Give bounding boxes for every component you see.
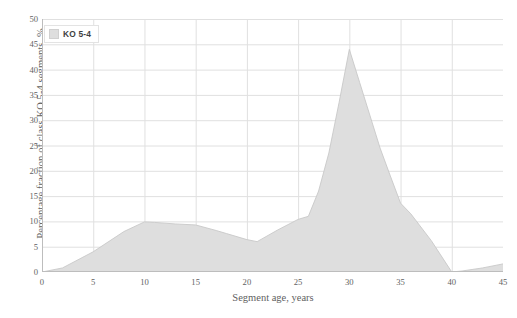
x-tick-label: 40: [437, 278, 467, 287]
area-fill: [42, 49, 503, 272]
x-tick-label: 45: [488, 278, 517, 287]
x-tick-label: 0: [27, 278, 57, 287]
chart-container: Percentage fraction of class KO 5-4 segm…: [0, 0, 517, 318]
x-tick-label: 15: [181, 278, 211, 287]
chart-legend: KO 5-4: [44, 25, 99, 43]
x-tick-label: 10: [129, 278, 159, 287]
x-tick-label: 20: [232, 278, 262, 287]
plot-area: [42, 19, 503, 272]
x-tick-label: 5: [78, 278, 108, 287]
plot-svg: [42, 19, 503, 272]
x-axis-title: Segment age, years: [42, 292, 504, 303]
series-area-ko-5-4: [42, 49, 503, 272]
x-tick-label: 35: [386, 278, 416, 287]
x-tick-label: 25: [283, 278, 313, 287]
x-tick-label: 30: [334, 278, 364, 287]
legend-swatch-ko-5-4: [49, 29, 59, 39]
legend-label-ko-5-4: KO 5-4: [63, 29, 91, 39]
